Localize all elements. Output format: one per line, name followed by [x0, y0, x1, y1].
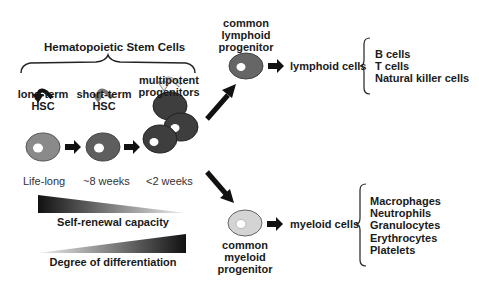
short-term-hsc-cell-icon	[86, 133, 120, 161]
multipotent-duration: <2 weeks	[146, 175, 193, 187]
list-item: Erythrocytes	[370, 232, 441, 244]
lymphoid-cell-types-list: B cells T cells Natural killer cells	[375, 48, 469, 85]
self-renewal-gradient-wedge	[38, 195, 186, 213]
common-lymphoid-progenitor-label: commonlymphoidprogenitor	[211, 17, 281, 53]
list-item: Granulocytes	[370, 219, 441, 231]
common-myeloid-progenitor-cell-icon	[228, 210, 262, 236]
differentiation-label: Degree of differentiation	[40, 256, 186, 268]
arrow-down-right-icon	[207, 172, 234, 203]
long-term-duration: Life-long	[23, 175, 65, 187]
self-renewal-label: Self-renewal capacity	[40, 216, 186, 228]
list-item: Neutrophils	[370, 207, 441, 219]
multipotent-progenitor-cells-icon	[143, 92, 198, 153]
arrow-right-icon	[267, 217, 283, 231]
common-myeloid-progenitor-label: commonmyeloidprogenitor	[210, 239, 280, 275]
arrow-right-icon	[65, 140, 81, 154]
common-lymphoid-progenitor-cell-icon	[229, 53, 263, 79]
list-item: Natural killer cells	[375, 72, 469, 84]
list-item: Platelets	[370, 244, 441, 256]
arrow-right-icon	[268, 59, 284, 73]
long-term-hsc-label: long-termHSC	[13, 88, 73, 112]
short-term-duration: ~8 weeks	[83, 175, 130, 187]
long-term-hsc-cell-icon	[26, 133, 60, 161]
differentiation-gradient-wedge	[38, 234, 186, 253]
myeloid-cell-types-list: Macrophages Neutrophils Granulocytes Ery…	[370, 195, 441, 256]
arrow-up-right-icon	[207, 84, 236, 119]
list-item: T cells	[375, 60, 469, 72]
hsc-title: Hematopoietic Stem Cells	[44, 41, 174, 53]
short-term-hsc-label: short-termHSC	[74, 88, 134, 112]
hsc-brace	[21, 55, 195, 73]
list-item: B cells	[375, 48, 469, 60]
multipotent-progenitors-label: multipotentprogenitors	[134, 74, 204, 98]
arrow-right-icon	[124, 140, 140, 154]
myeloid-cells-label: myeloid cells	[290, 218, 359, 230]
list-item: Macrophages	[370, 195, 441, 207]
lymphoid-cells-label: lymphoid cells	[290, 60, 366, 72]
